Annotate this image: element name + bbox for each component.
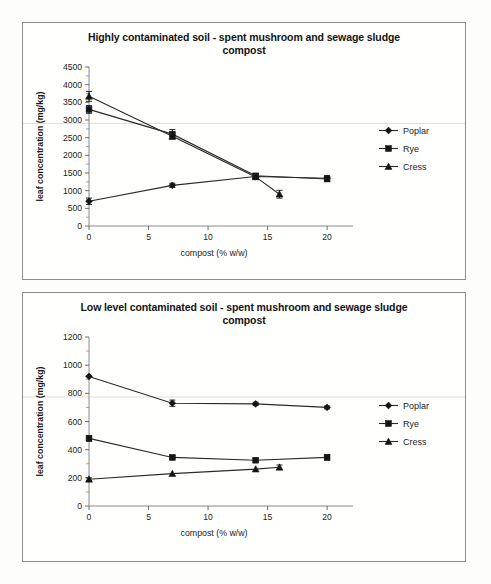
y-tick-label: 600	[68, 417, 83, 427]
x-axis-label: compost (% w/w)	[181, 528, 248, 538]
series-line-poplar	[89, 177, 327, 202]
marker-diamond	[252, 400, 259, 407]
y-tick-label: 4000	[63, 80, 82, 90]
y-tick-label: 4500	[63, 62, 82, 72]
chart-panel-low-level-contaminated: Low level contaminated soil - spent mush…	[22, 292, 466, 562]
series-poplar	[86, 373, 331, 411]
y-tick-label: 2000	[63, 150, 82, 160]
y-tick-label: 1200	[63, 332, 82, 342]
marker-square	[253, 457, 259, 463]
document-page: Highly contaminated soil - spent mushroo…	[0, 0, 491, 584]
series-rye	[86, 436, 330, 464]
legend-item-rye[interactable]: Rye	[379, 144, 419, 154]
y-tick-label: 800	[68, 388, 83, 398]
x-tick-label: 10	[203, 232, 213, 242]
marker-square	[386, 146, 392, 152]
y-tick-label: 3000	[63, 115, 82, 125]
chart-title-bottom: Low level contaminated soil - spent mush…	[23, 293, 465, 327]
legend-label: Poplar	[403, 401, 429, 411]
legend-item-poplar[interactable]: Poplar	[379, 401, 429, 411]
chart-title-top: Highly contaminated soil - spent mushroo…	[23, 23, 465, 57]
series-cress	[86, 91, 283, 198]
chart-title-bottom-line2: compost	[222, 314, 265, 326]
y-axis-label: leaf concentration (mg/kg)	[35, 91, 45, 201]
x-tick-label: 5	[146, 232, 151, 242]
y-axis-label: leaf concentration (mg/kg)	[35, 366, 45, 476]
series-line-rye	[89, 109, 327, 179]
legend-item-cress[interactable]: Cress	[379, 162, 427, 172]
chart-title-bottom-line1: Low level contaminated soil - spent mush…	[81, 301, 408, 313]
legend-item-rye[interactable]: Rye	[379, 419, 419, 429]
x-tick-label: 20	[322, 232, 332, 242]
series-line-cress	[89, 467, 279, 479]
series-line-rye	[89, 438, 327, 460]
y-tick-label: 400	[68, 445, 83, 455]
plot-area-bottom: 02004006008001000120005101520compost (% …	[23, 327, 467, 552]
marker-diamond	[385, 127, 392, 134]
x-axis-label: compost (% w/w)	[181, 248, 248, 258]
chart-panel-highly-contaminated: Highly contaminated soil - spent mushroo…	[22, 22, 466, 280]
marker-diamond	[86, 198, 93, 205]
legend-label: Cress	[403, 162, 427, 172]
y-tick-label: 2500	[63, 133, 82, 143]
legend-item-poplar[interactable]: Poplar	[379, 126, 429, 136]
marker-diamond	[86, 373, 93, 380]
chart-title-top-line1: Highly contaminated soil - spent mushroo…	[88, 31, 400, 43]
plot-area-top: 0500100015002000250030003500400045000510…	[23, 57, 467, 272]
marker-diamond	[324, 404, 331, 411]
marker-diamond	[169, 400, 176, 407]
x-tick-label: 20	[322, 512, 332, 522]
legend-label: Poplar	[403, 126, 429, 136]
series-line-cress	[89, 96, 279, 194]
marker-square	[169, 455, 175, 461]
x-tick-label: 0	[87, 512, 92, 522]
marker-square	[324, 455, 330, 461]
y-tick-label: 1000	[63, 186, 82, 196]
x-tick-label: 5	[146, 512, 151, 522]
y-tick-label: 3500	[63, 97, 82, 107]
x-tick-label: 15	[263, 512, 273, 522]
series-cress	[86, 464, 283, 482]
y-tick-label: 0	[77, 501, 82, 511]
x-tick-label: 0	[87, 232, 92, 242]
marker-square	[86, 436, 92, 442]
legend-label: Rye	[403, 144, 419, 154]
series-line-poplar	[89, 376, 327, 407]
marker-square	[324, 176, 330, 182]
marker-square	[86, 107, 92, 113]
y-tick-label: 500	[68, 203, 83, 213]
y-tick-label: 200	[68, 473, 83, 483]
legend-label: Cress	[403, 437, 427, 447]
marker-triangle	[276, 191, 283, 197]
marker-square	[386, 421, 392, 427]
x-tick-label: 15	[263, 232, 273, 242]
marker-diamond	[385, 402, 392, 409]
y-tick-label: 1000	[63, 360, 82, 370]
series-rye	[86, 106, 330, 182]
y-tick-label: 1500	[63, 168, 82, 178]
legend-label: Rye	[403, 419, 419, 429]
x-tick-label: 10	[203, 512, 213, 522]
legend-item-cress[interactable]: Cress	[379, 437, 427, 447]
chart-title-top-line2: compost	[222, 44, 265, 56]
y-tick-label: 0	[77, 221, 82, 231]
